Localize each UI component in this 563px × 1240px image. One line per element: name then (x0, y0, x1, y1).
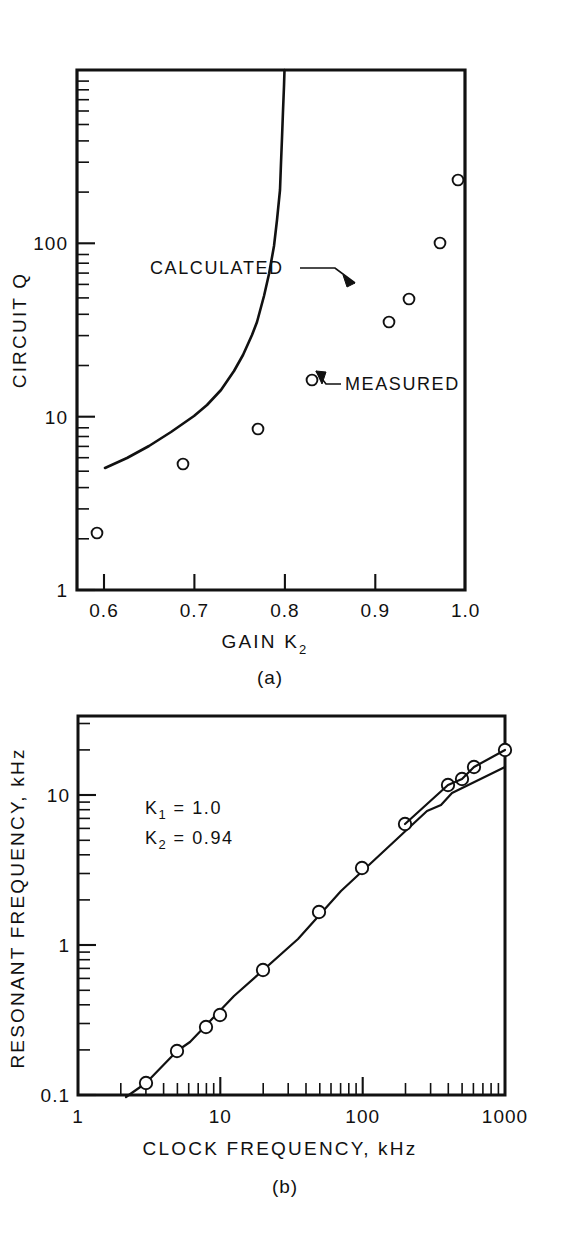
x-axis-title-b: CLOCK FREQUENCY, kHz (143, 1138, 418, 1159)
x-tick-label-a-2: 0.8 (270, 600, 299, 621)
y-tick-label-a-2: 100 (33, 233, 68, 254)
x-tick-label-a-4: 1.0 (451, 600, 480, 621)
annotation-k1-sub: 1 (159, 807, 168, 822)
data-point-marker (404, 294, 415, 305)
chart-a-svg: 1 10 100 CIRCUIT Q 0.6 0.7 0.8 0.9 1.0 G… (0, 0, 563, 700)
data-point-marker (92, 528, 103, 539)
x-tick-label-a-1: 0.7 (180, 600, 209, 621)
annotation-k1-value: = 1.0 (173, 798, 222, 818)
series-measured-markers-a (92, 175, 464, 539)
y-axis-title-b: RESONANT FREQUENCY, kHz (7, 747, 28, 1068)
figure-root: 1 10 100 CIRCUIT Q 0.6 0.7 0.8 0.9 1.0 G… (0, 0, 563, 1240)
plot-frame-a (77, 70, 465, 590)
series-measured-line-b-upper (405, 750, 505, 824)
y-axis-ticks-a (77, 81, 95, 590)
chart-b-svg: 0.1 1 10 RESONANT FREQUENCY, kHz (0, 640, 563, 1240)
plot-frame-b (78, 716, 505, 1095)
data-point-marker (257, 964, 269, 976)
x-tick-label-b-1: 10 (209, 1106, 232, 1127)
y-axis-ticks-b (78, 724, 96, 1096)
data-point-marker (171, 1045, 183, 1057)
x-tick-label-a-0: 0.6 (89, 600, 118, 621)
annotation-k2-symbol: K (145, 828, 159, 848)
annotation-k2: K2= 0.94 (145, 828, 234, 852)
chart-panel-a: 1 10 100 CIRCUIT Q 0.6 0.7 0.8 0.9 1.0 G… (0, 0, 563, 700)
y-tick-label-b-2: 10 (47, 785, 70, 806)
annotation-k1-symbol: K (145, 798, 159, 818)
y-tick-label-a-0: 1 (56, 580, 68, 601)
y-tick-label-b-0: 0.1 (41, 1085, 70, 1106)
y-axis-title-a: CIRCUIT Q (9, 272, 30, 389)
x-tick-label-a-3: 0.9 (361, 600, 390, 621)
x-tick-label-b-3: 1000 (482, 1106, 528, 1127)
panel-label-b: (b) (272, 1176, 298, 1197)
data-point-marker (253, 424, 264, 435)
data-point-marker (384, 317, 395, 328)
y-tick-label-a-1: 10 (45, 407, 68, 428)
data-point-marker (200, 1021, 212, 1033)
annotation-k1: K1= 1.0 (145, 798, 222, 822)
annotation-measured-label: MEASURED (345, 374, 460, 394)
x-tick-label-b-2: 100 (345, 1106, 380, 1127)
data-point-marker (453, 175, 464, 186)
data-point-marker (435, 238, 446, 249)
annotation-k2-sub: 2 (159, 837, 168, 852)
x-tick-label-b-0: 1 (72, 1106, 84, 1127)
data-point-marker (214, 1009, 226, 1021)
annotation-k2-value: = 0.94 (173, 828, 233, 848)
data-point-marker (140, 1077, 152, 1089)
x-axis-ticks-b (121, 1077, 499, 1095)
annotation-calculated-label: CALCULATED (150, 258, 284, 278)
y-tick-label-b-1: 1 (58, 935, 70, 956)
chart-panel-b: 0.1 1 10 RESONANT FREQUENCY, kHz (0, 640, 563, 1240)
data-point-marker (178, 459, 189, 470)
data-point-marker (356, 862, 368, 874)
data-point-marker (307, 375, 318, 386)
x-axis-ticks-a (104, 574, 375, 590)
data-point-marker (313, 906, 325, 918)
